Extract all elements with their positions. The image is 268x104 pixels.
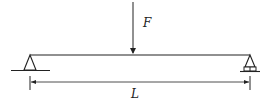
force-label: F (142, 16, 152, 30)
dimension-line (30, 76, 250, 90)
length-label: L (130, 87, 139, 101)
roller-support-icon (240, 55, 260, 72)
pin-support-icon (11, 55, 50, 71)
beam-diagram: F L (0, 0, 268, 104)
